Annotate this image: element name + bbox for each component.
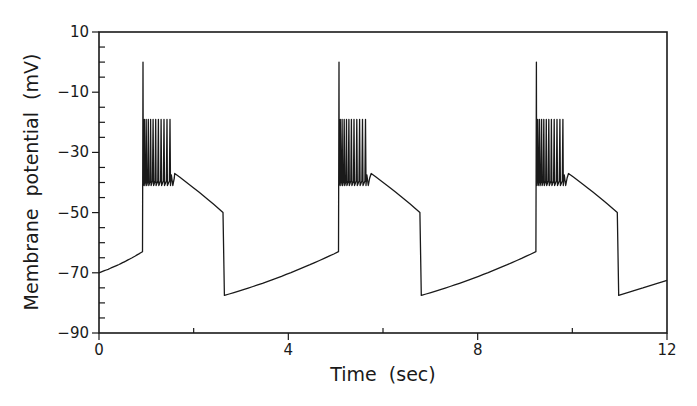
y-tick-label: −50 [57,204,89,222]
x-axis-ticks [99,328,667,340]
y-tick-label: −30 [57,143,89,161]
chart-canvas: 10−10−30−50−70−90 04812 Time (sec) Membr… [0,0,697,406]
membrane-potential-chart: 10−10−30−50−70−90 04812 Time (sec) Membr… [0,0,697,406]
y-axis-tick-labels: 10−10−30−50−70−90 [57,23,89,342]
membrane-potential-trace [99,62,667,295]
y-tick-label: 10 [70,23,89,41]
x-tick-label: 4 [284,341,294,359]
x-tick-label: 12 [657,341,676,359]
y-tick-label: −70 [57,264,89,282]
x-axis-tick-labels: 04812 [94,341,676,359]
x-tick-label: 0 [94,341,104,359]
y-tick-label: −10 [57,83,89,101]
y-tick-label: −90 [57,324,89,342]
x-axis-title: Time (sec) [329,363,435,385]
x-tick-label: 8 [473,341,483,359]
y-axis-title: Membrane potential (mV) [20,54,42,311]
